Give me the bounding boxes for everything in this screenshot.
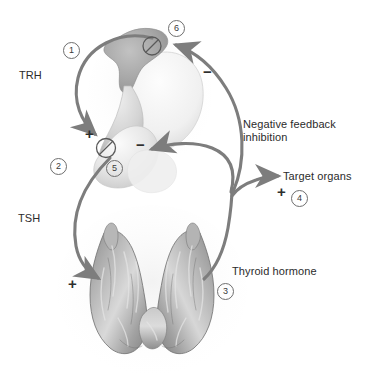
step-marker-5: 5 — [106, 160, 123, 177]
step-marker-1: 1 — [63, 42, 80, 59]
label-target-organs: Target organs — [283, 170, 352, 183]
sign-plus-thyroid: + — [68, 276, 77, 291]
sign-minus-pituitary: − — [136, 137, 145, 152]
label-tsh: TSH — [18, 212, 40, 225]
label-trh: TRH — [19, 69, 42, 82]
label-thyroid-hormone: Thyroid hormone — [232, 265, 317, 278]
sign-minus-hypothalamus: − — [203, 64, 212, 79]
step-marker-4: 4 — [291, 190, 308, 207]
step-marker-2: 2 — [50, 158, 67, 175]
hpt-axis-illustration — [0, 0, 374, 383]
label-inhibition: inhibition — [243, 131, 287, 144]
pituitary-lower-shading — [127, 150, 176, 193]
step-marker-6: 6 — [168, 20, 185, 37]
sign-plus-pituitary: + — [85, 126, 94, 141]
sign-plus-target: + — [277, 184, 286, 199]
step-marker-3: 3 — [217, 283, 234, 300]
label-negative-feedback: Negative feedback — [243, 118, 336, 131]
figure-canvas: TRH TSH Negative feedback inhibition Tar… — [0, 0, 374, 383]
